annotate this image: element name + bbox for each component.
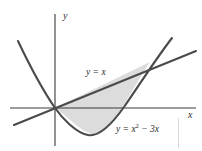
page-edge-artifact xyxy=(178,118,179,148)
parabola-equation-label: y = x2 − 3x xyxy=(116,125,159,135)
parabola-label-prefix: y = x xyxy=(116,124,136,134)
x-axis-label: x xyxy=(188,110,192,120)
line-equation-label: y = x xyxy=(86,68,106,78)
y-axis-label: y xyxy=(63,11,67,21)
area-between-curves-figure: y x y = x y = x2 − 3x xyxy=(0,0,202,151)
parabola-label-suffix: − 3x xyxy=(139,124,159,134)
